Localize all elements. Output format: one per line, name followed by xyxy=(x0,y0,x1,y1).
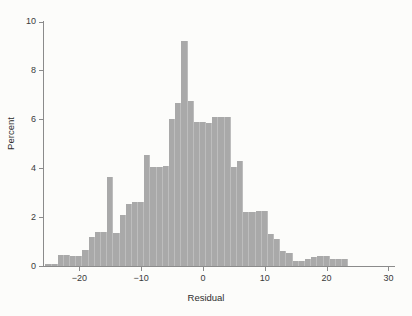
x-tick-label: 10 xyxy=(250,274,280,283)
y-axis-line xyxy=(43,21,44,267)
x-tick xyxy=(388,267,389,271)
y-tick xyxy=(39,217,43,218)
histogram-figure: 0246810 −20−100102030 Percent Residual xyxy=(0,0,412,316)
y-tick-label: 10 xyxy=(8,17,36,26)
x-tick-label: 0 xyxy=(188,274,218,283)
x-axis-title: Residual xyxy=(0,292,412,303)
y-tick-label: 2 xyxy=(8,213,36,222)
y-tick xyxy=(39,168,43,169)
plot-area: 0246810 −20−100102030 Percent Residual xyxy=(0,0,412,316)
y-tick xyxy=(39,266,43,267)
x-tick-label: −10 xyxy=(126,274,156,283)
histogram-bar xyxy=(342,259,348,266)
x-tick xyxy=(141,267,142,271)
y-axis-title: Percent xyxy=(5,104,16,164)
y-tick xyxy=(39,70,43,71)
x-tick-label: 20 xyxy=(312,274,342,283)
x-tick-label: 30 xyxy=(373,274,403,283)
x-tick xyxy=(327,267,328,271)
x-tick xyxy=(203,267,204,271)
x-tick xyxy=(79,267,80,271)
y-tick-label: 0 xyxy=(8,262,36,271)
x-tick-label: −20 xyxy=(64,274,94,283)
y-tick xyxy=(39,22,43,23)
x-axis-line xyxy=(43,266,395,267)
y-tick-label: 8 xyxy=(8,66,36,75)
x-tick xyxy=(265,267,266,271)
y-tick xyxy=(39,119,43,120)
y-tick-label: 4 xyxy=(8,164,36,173)
